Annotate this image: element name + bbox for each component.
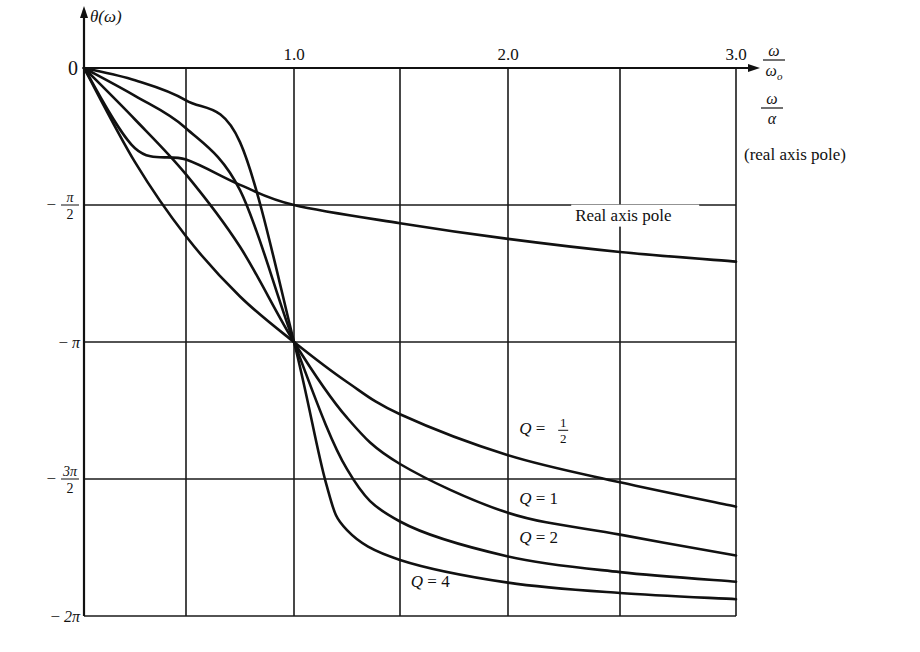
curve-q-1 — [84, 68, 736, 556]
curve-annotation: Q = 4 — [411, 572, 450, 591]
curve-q-1-2 — [84, 68, 736, 507]
svg-text:ωo: ωo — [766, 62, 783, 82]
curve-q-2 — [84, 68, 736, 582]
svg-text:π: π — [72, 334, 81, 351]
svg-text:Real axis pole: Real axis pole — [575, 206, 671, 225]
x-axis-label-omega-over-omega-o: ωωo — [763, 42, 785, 82]
svg-text:−: − — [58, 333, 68, 352]
x-tick-label: 3.0 — [725, 45, 746, 64]
svg-text:−: − — [50, 607, 60, 626]
y-tick-label: π− — [58, 333, 81, 352]
svg-text:ω: ω — [766, 90, 777, 107]
x-tick-label: 1.0 — [283, 45, 304, 64]
x-axis-note: (real axis pole) — [744, 145, 846, 164]
x-tick-label: 2.0 — [497, 45, 518, 64]
x-axis-arrow-icon — [748, 64, 760, 72]
y-axis-arrow-icon — [80, 6, 88, 18]
svg-text:2π: 2π — [64, 608, 81, 625]
y-tick-label: π2− — [46, 190, 79, 222]
svg-text:−: − — [46, 195, 56, 214]
svg-text:−: − — [46, 469, 56, 488]
svg-text:1: 1 — [560, 415, 567, 430]
phase-response-chart: θ(ω)1.02.03.00π2−π−3π2−2π−ωωoωα(real axi… — [0, 0, 920, 652]
svg-text:Q = 4: Q = 4 — [411, 572, 450, 591]
grid — [84, 68, 736, 616]
labels: θ(ω)1.02.03.00π2−π−3π2−2π−ωωoωα(real axi… — [46, 7, 846, 626]
y-tick-label: 2π− — [50, 607, 81, 626]
svg-text:2: 2 — [67, 481, 74, 496]
curves — [84, 68, 736, 599]
svg-text:ω: ω — [768, 42, 779, 59]
curve-annotation: Q = 2 — [519, 528, 558, 547]
svg-text:2: 2 — [560, 431, 567, 446]
x-axis-label-omega-over-alpha: ωα — [761, 90, 783, 127]
y-tick-label: 3π2− — [46, 464, 79, 496]
svg-text:Q = 1: Q = 1 — [519, 489, 558, 508]
y-tick-label: 0 — [68, 57, 78, 79]
curve-q-4 — [84, 68, 736, 599]
svg-text:2: 2 — [67, 207, 74, 222]
curve-annotation: Q =12 — [519, 415, 568, 446]
svg-text:α: α — [768, 110, 777, 127]
svg-text:Q = 2: Q = 2 — [519, 528, 558, 547]
svg-text:3π: 3π — [62, 464, 78, 479]
curve-annotation: Q = 1 — [519, 489, 558, 508]
y-axis-label: θ(ω) — [90, 7, 122, 26]
svg-text:π: π — [66, 190, 74, 205]
svg-text:Q =: Q = — [519, 419, 545, 438]
curve-annotation: Real axis pole — [571, 205, 699, 227]
